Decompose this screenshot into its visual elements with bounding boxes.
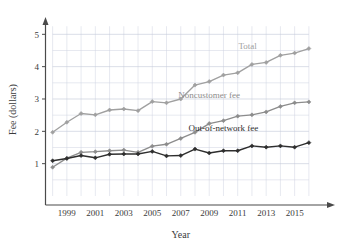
y-tick-label: 2 bbox=[35, 127, 40, 137]
data-point-marker bbox=[293, 51, 297, 55]
data-point-marker bbox=[122, 152, 126, 156]
data-point-marker bbox=[278, 104, 282, 108]
data-point-marker bbox=[122, 148, 126, 152]
x-tick-label: 2011 bbox=[229, 208, 247, 218]
y-tick-label: 4 bbox=[35, 62, 40, 72]
data-point-marker bbox=[93, 113, 97, 117]
data-point-marker bbox=[307, 141, 311, 145]
x-tick-label: 2013 bbox=[257, 208, 276, 218]
data-point-marker bbox=[236, 149, 240, 153]
data-point-marker bbox=[221, 149, 225, 153]
data-point-marker bbox=[293, 101, 297, 105]
data-point-marker bbox=[108, 152, 112, 156]
x-axis-title: Year bbox=[172, 229, 191, 240]
data-point-marker bbox=[93, 150, 97, 154]
data-point-marker bbox=[307, 47, 311, 51]
chart-figure: 1234519992001200320052007200920112013201… bbox=[0, 0, 348, 251]
data-point-marker bbox=[250, 113, 254, 117]
data-point-marker bbox=[207, 151, 211, 155]
y-axis-title: Fee (dollars) bbox=[7, 84, 19, 135]
x-tick-label: 2009 bbox=[200, 208, 219, 218]
data-point-marker bbox=[221, 73, 225, 77]
x-tick-label: 2001 bbox=[86, 208, 104, 218]
data-point-marker bbox=[165, 142, 169, 146]
chart-axes bbox=[42, 17, 335, 208]
data-point-marker bbox=[293, 145, 297, 149]
data-point-marker bbox=[93, 156, 97, 160]
grid-lines bbox=[53, 26, 309, 196]
y-tick-label: 1 bbox=[35, 159, 40, 169]
series-labels: TotalNoncustomer feeOut-of-network fee bbox=[178, 41, 258, 133]
data-point-marker bbox=[79, 154, 83, 158]
series-annotation-label: Noncustomer fee bbox=[178, 90, 240, 100]
y-axis-arrow bbox=[43, 17, 49, 25]
y-tick-label: 5 bbox=[35, 30, 40, 40]
x-axis-arrow bbox=[327, 202, 335, 208]
line-chart: 1234519992001200320052007200920112013201… bbox=[0, 0, 348, 251]
series-annotation-label: Total bbox=[238, 41, 257, 51]
data-point-marker bbox=[108, 108, 112, 112]
data-point-marker bbox=[122, 107, 126, 111]
data-point-marker bbox=[165, 154, 169, 158]
tick-labels: 1234519992001200320052007200920112013201… bbox=[35, 30, 305, 218]
x-tick-label: 2003 bbox=[115, 208, 134, 218]
data-point-marker bbox=[236, 114, 240, 118]
data-point-marker bbox=[264, 110, 268, 114]
data-point-marker bbox=[307, 100, 311, 104]
series-annotation-label: Out-of-network fee bbox=[189, 123, 259, 133]
x-tick-label: 2007 bbox=[172, 208, 191, 218]
x-tick-label: 2005 bbox=[143, 208, 162, 218]
data-point-marker bbox=[51, 159, 55, 163]
x-tick-label: 2015 bbox=[286, 208, 305, 218]
data-point-marker bbox=[264, 145, 268, 149]
data-point-marker bbox=[150, 149, 154, 153]
data-point-marker bbox=[165, 101, 169, 105]
data-point-marker bbox=[179, 136, 183, 140]
y-tick-label: 3 bbox=[35, 94, 40, 104]
x-tick-label: 1999 bbox=[58, 208, 77, 218]
